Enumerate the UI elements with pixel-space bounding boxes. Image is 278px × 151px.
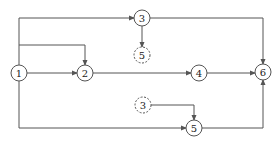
network-diagram: 12354635: [0, 0, 278, 151]
node-n3: 3: [134, 10, 150, 26]
edge-5-6: [202, 80, 263, 128]
node-label: 4: [196, 68, 202, 79]
edge-3d-5: [151, 105, 194, 120]
edge-3-6: [150, 18, 263, 64]
node-n5: 5: [186, 120, 202, 136]
node-n5d: 5: [134, 47, 150, 63]
node-label: 2: [82, 68, 88, 79]
edge-1-3: [19, 18, 134, 65]
node-label: 5: [139, 50, 145, 61]
node-label: 1: [16, 68, 22, 79]
diagram-svg: 12354635: [0, 0, 278, 151]
node-label: 5: [191, 123, 197, 134]
node-n6: 6: [255, 64, 271, 80]
node-label: 6: [260, 67, 266, 78]
node-label: 3: [140, 100, 146, 111]
node-n1: 1: [11, 65, 27, 81]
edge-1-2-upper: [19, 45, 85, 65]
node-n2: 2: [77, 65, 93, 81]
node-label: 3: [139, 13, 145, 24]
node-n4: 4: [191, 65, 207, 81]
node-n3d: 3: [135, 97, 151, 113]
